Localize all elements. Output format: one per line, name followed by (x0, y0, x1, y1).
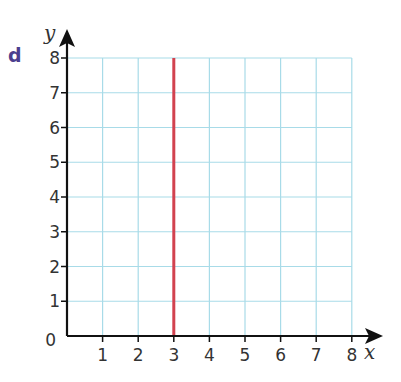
y-tick-label: 7 (49, 83, 60, 103)
x-tick-label: 8 (346, 345, 357, 365)
y-axis-label: y (43, 21, 56, 45)
x-tick-label: 7 (311, 345, 322, 365)
y-tick-label: 6 (49, 118, 60, 138)
y-tick-label: 5 (49, 152, 60, 172)
x-axis-label: x (364, 340, 375, 364)
y-tick-label: 2 (49, 257, 60, 277)
x-tick-label: 3 (168, 345, 179, 365)
y-tick-label: 0 (45, 330, 56, 350)
x-tick-label: 1 (97, 345, 108, 365)
axes (59, 29, 383, 344)
y-tick-label: 3 (49, 222, 60, 242)
grid-lines (67, 58, 352, 336)
x-tick-label: 2 (133, 345, 144, 365)
y-tick-label: 1 (49, 291, 60, 311)
x-tick-label: 4 (204, 345, 215, 365)
x-tick-label: 5 (240, 345, 251, 365)
y-tick-label: 8 (49, 48, 60, 68)
x-tick-label: 6 (275, 345, 286, 365)
coordinate-grid-chart: 12345678012345678xy (0, 0, 401, 382)
y-tick-label: 4 (49, 187, 60, 207)
